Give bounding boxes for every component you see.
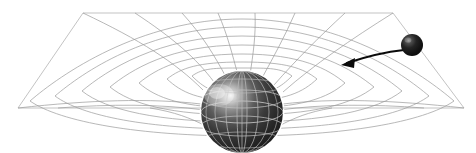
orbiting-body-sphere	[401, 34, 423, 56]
trajectory-line	[347, 50, 404, 63]
orbiting-body-highlight	[405, 37, 412, 42]
radial-spoke	[250, 13, 255, 75]
orbiting-body-group	[401, 34, 423, 56]
trajectory-arrowhead	[341, 58, 355, 68]
massive-body-group	[201, 71, 283, 153]
radial-spoke	[218, 13, 238, 75]
spacetime-curvature-figure: Spacetime curvature around a massive bod…	[0, 0, 476, 153]
sphere-specular-core	[209, 87, 225, 99]
spacetime-diagram-canvas	[0, 0, 476, 153]
